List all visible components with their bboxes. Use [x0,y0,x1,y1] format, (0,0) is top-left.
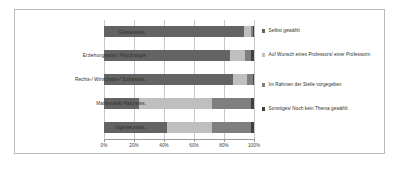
gridline-100 [254,20,255,139]
bar-segment [212,122,251,133]
legend-swatch-icon [262,29,265,32]
legend-label: Sonstiges/ Noch kein Thema gewählt [269,106,348,112]
bar-segment [253,74,255,85]
x-tick-label: 100% [248,143,260,148]
legend-item[interactable]: Selbst gewählt [262,28,300,34]
legend-swatch-icon [262,107,265,110]
x-tick-mark [104,139,105,142]
x-tick-label: 20% [129,143,139,148]
legend-swatch-icon [262,53,265,56]
x-tick-mark [254,139,255,142]
bar-segment [139,98,213,109]
legend-label: Selbst gewählt [269,28,300,34]
x-tick-label: 80% [219,143,229,148]
legend-label: Auf Wunsch eines Professors/ einer Profe… [269,52,371,58]
category-label: Ingenieurwiss. [115,125,146,130]
legend-swatch-icon [262,83,265,86]
bar-segment [251,98,254,109]
x-tick-mark [134,139,135,142]
x-tick-label: 40% [159,143,169,148]
bar-segment [212,98,251,109]
category-label: Rechts-/ Wirtschafts-/ Sozialwiss. [75,77,146,82]
bar-segment [251,122,254,133]
bar-segment [253,26,255,37]
bar-segment [244,26,252,37]
x-tick-mark [224,139,225,142]
bar-segment [167,122,212,133]
category-label: Mathematik/ Naturwiss. [96,101,146,106]
bar-segment [251,50,254,61]
category-label: Geisteswiss. [119,30,146,35]
bar-segment [230,50,245,61]
category-label: Erziehungswiss./ Psychologie [83,53,146,58]
legend-label: Im Rahmen der Stelle vorgegeben [269,82,342,88]
bar-segment [233,74,247,85]
x-tick-mark [164,139,165,142]
legend-item[interactable]: Sonstiges/ Noch kein Thema gewählt [262,106,348,112]
legend-item[interactable]: Auf Wunsch eines Professors/ einer Profe… [262,52,370,58]
x-tick-label: 0% [101,143,108,148]
legend-item[interactable]: Im Rahmen der Stelle vorgegeben [262,82,342,88]
x-tick-label: 60% [189,143,199,148]
chart-figure: 0%20%40%60%80%100% Geisteswiss.Erziehung… [0,0,399,171]
x-axis-line [104,139,254,140]
x-tick-mark [194,139,195,142]
